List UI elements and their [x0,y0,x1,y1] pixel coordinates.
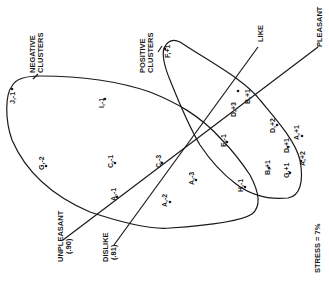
svg-text:A,-2: A,-2 [161,194,169,207]
positive-clusters-label: POSITIVE CLUSTERS [138,33,155,73]
svg-text:C,-3: C,-3 [155,155,163,168]
svg-text:B,+1: B,+1 [244,89,252,104]
svg-text:G,-2: G,-2 [38,156,46,170]
svg-text:E,-1: E,-1 [220,134,228,147]
svg-text:J,-1: J,-1 [9,92,17,104]
unpleasant-label: UNPLEASANT (.90) [56,209,73,262]
svg-text:A,-3: A,-3 [188,172,196,185]
dislike-label: DISLIKE (.81) [101,230,118,262]
svg-text:D,+2: D,+2 [269,118,277,133]
svg-text:D,+3: D,+3 [230,102,238,117]
svg-text:A,+2: A,+2 [299,151,307,166]
svg-text:G,+1: G,+1 [283,163,291,178]
negative-points: J,-1 I,-1 G,-2 C,-1 C,-3 A,-1 A,-2 A,-3 … [9,88,246,207]
svg-text:H,-1: H,-1 [237,179,245,192]
svg-text:A,+1: A,+1 [293,125,301,140]
like-axis-line [114,47,258,245]
svg-text:A,-1: A,-1 [110,188,118,201]
like-label: LIKE [256,25,265,42]
svg-text:D,+1: D,+1 [283,138,291,153]
pleasant-axis-line [63,47,318,240]
svg-text:F,+1: F,+1 [164,44,172,58]
pleasant-label: PLEASANT [315,6,324,47]
positive-cluster-outline [163,40,301,198]
stress-label: STRESS = 7% [313,223,322,273]
svg-text:C,-1: C,-1 [107,155,115,168]
positive-points: F,+1 D,+3 B,+1 D,+2 D,+1 A,+1 B,+1 G,+1 … [164,44,307,178]
negative-clusters-label: NEGATIVE CLUSTERS [28,33,45,73]
positive-label-pointer [158,46,162,52]
mds-cluster-diagram: NEGATIVE CLUSTERS POSITIVE CLUSTERS LIKE… [0,0,329,289]
svg-text:I,-1: I,-1 [98,98,106,108]
svg-text:B,+1: B,+1 [264,160,272,175]
